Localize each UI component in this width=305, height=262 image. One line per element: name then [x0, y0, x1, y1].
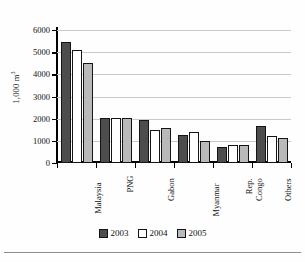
- legend-label: 2005: [189, 228, 207, 238]
- legend-swatch-icon: [99, 229, 108, 238]
- y-axis-tick-label: 6000: [33, 25, 50, 35]
- category-label-line: Rep.: [244, 178, 254, 194]
- y-axis-title: 1,000 m3: [0, 0, 30, 175]
- category-label-line: PNG: [124, 176, 134, 193]
- category-label-rep-congo: Rep.Congo: [244, 178, 264, 201]
- bar-group: [135, 30, 174, 163]
- category-label-others: Others: [283, 178, 293, 201]
- bar-rep-congo-2004[interactable]: [228, 145, 238, 163]
- legend-item-2005[interactable]: 2005: [177, 228, 207, 238]
- bar-malaysia-2004[interactable]: [72, 50, 82, 163]
- chart-legend: 200320042005: [0, 228, 305, 238]
- bar-myanmar-2005[interactable]: [200, 141, 210, 163]
- bar-group: [57, 30, 96, 163]
- bar-others-2003[interactable]: [256, 126, 266, 163]
- bar-malaysia-2005[interactable]: [83, 63, 93, 163]
- bar-png-2003[interactable]: [100, 118, 110, 163]
- bar-gabon-2004[interactable]: [150, 130, 160, 163]
- category-label-malaysia: Malaysia: [92, 183, 102, 214]
- category-label-myanmar: Myanmar: [210, 184, 220, 217]
- bar-gabon-2005[interactable]: [161, 128, 171, 163]
- bar-chart-figure: 1,000 m3 0100020003000400050006000 Malay…: [0, 0, 305, 262]
- y-axis-tick-label: 3000: [33, 92, 50, 102]
- x-axis-tick: [291, 163, 292, 168]
- bar-others-2005[interactable]: [278, 138, 288, 163]
- plot-area: 0100020003000400050006000: [57, 30, 291, 163]
- bar-rep-congo-2005[interactable]: [239, 145, 249, 163]
- y-axis-tick-label: 5000: [33, 47, 50, 57]
- bar-myanmar-2004[interactable]: [189, 132, 199, 163]
- category-label-line: Myanmar: [210, 184, 220, 217]
- legend-item-2003[interactable]: 2003: [99, 228, 129, 238]
- bar-others-2004[interactable]: [267, 136, 277, 163]
- category-label-line: Others: [283, 178, 293, 201]
- y-axis-title-superscript: 3: [10, 71, 16, 74]
- y-axis-tick-label: 1000: [33, 136, 50, 146]
- y-axis-tick-label: 0: [46, 158, 50, 168]
- bar-png-2004[interactable]: [111, 118, 121, 163]
- category-label-gabon: Gabon: [166, 178, 176, 201]
- bar-gabon-2003[interactable]: [139, 120, 149, 163]
- legend-swatch-icon: [177, 229, 186, 238]
- bar-groups: [57, 30, 291, 163]
- bar-myanmar-2003[interactable]: [178, 135, 188, 163]
- bar-group: [252, 30, 291, 163]
- bar-group: [174, 30, 213, 163]
- y-axis-title-text: 1,000 m: [10, 74, 20, 103]
- category-label-line: Gabon: [166, 178, 176, 201]
- legend-swatch-icon: [138, 229, 147, 238]
- bar-group: [96, 30, 135, 163]
- x-axis-category-labels: MalaysiaPNGGabonMyanmarRep.CongoOthers: [57, 167, 291, 219]
- legend-label: 2004: [150, 228, 168, 238]
- category-label-png: PNG: [124, 176, 134, 193]
- y-axis-tick-label: 2000: [33, 114, 50, 124]
- legend-item-2004[interactable]: 2004: [138, 228, 168, 238]
- category-label-line: Malaysia: [92, 183, 102, 214]
- bar-png-2005[interactable]: [122, 118, 132, 163]
- bar-malaysia-2003[interactable]: [61, 42, 71, 163]
- category-label-line: Congo: [254, 178, 264, 201]
- y-axis-tick-label: 4000: [33, 69, 50, 79]
- page-divider-rule: [4, 252, 301, 253]
- legend-label: 2003: [111, 228, 129, 238]
- bar-group: [213, 30, 252, 163]
- bar-rep-congo-2003[interactable]: [217, 147, 227, 163]
